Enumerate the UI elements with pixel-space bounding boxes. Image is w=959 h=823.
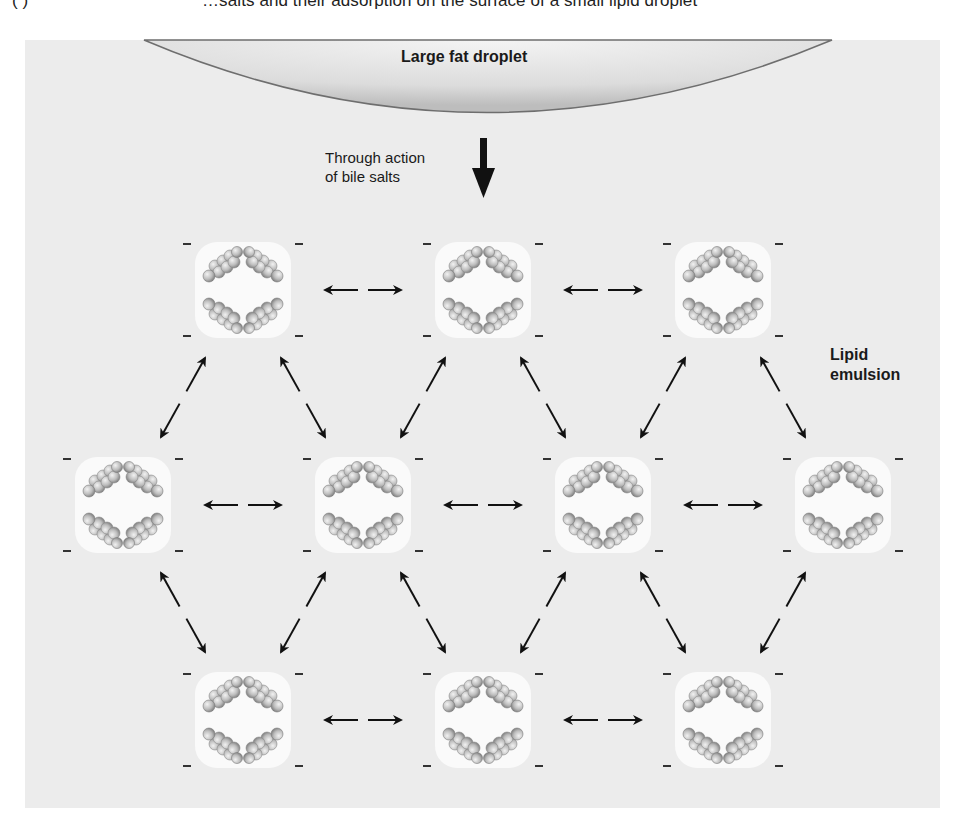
arrow-icon — [666, 619, 685, 652]
down-arrow-icon — [472, 138, 495, 198]
exchange-arrows — [161, 290, 805, 720]
emulsion-droplet — [543, 457, 663, 553]
arrow-icon — [666, 358, 685, 391]
arrow-icon — [186, 358, 205, 391]
arrow-icon — [281, 358, 300, 391]
arrow-icon — [546, 573, 565, 606]
arrow-icon — [161, 404, 180, 437]
large-fat-droplet-label: Large fat droplet — [401, 47, 527, 66]
arrow-icon — [761, 619, 780, 652]
emulsion-droplet — [423, 242, 543, 338]
arrow-icon — [786, 404, 805, 437]
arrow-icon — [306, 573, 325, 606]
arrow-icon — [761, 358, 780, 391]
arrow-icon — [521, 619, 540, 652]
arrow-icon — [306, 404, 325, 437]
arrow-icon — [521, 358, 540, 391]
bile-salts-action-label: Through action of bile salts — [325, 148, 425, 186]
emulsion-droplet — [303, 457, 423, 553]
emulsion-droplets — [63, 242, 903, 768]
emulsion-droplet — [183, 672, 303, 768]
emulsion-droplet — [63, 457, 183, 553]
arrow-icon — [401, 404, 420, 437]
lipid-emulsion-label: Lipid emulsion — [830, 345, 900, 385]
arrow-icon — [786, 573, 805, 606]
arrow-icon — [426, 358, 445, 391]
arrow-icon — [641, 404, 660, 437]
arrow-icon — [641, 573, 660, 606]
emulsion-droplet — [663, 242, 783, 338]
emulsion-droplet — [423, 672, 543, 768]
arrow-icon — [546, 404, 565, 437]
arrow-icon — [186, 619, 205, 652]
emulsion-droplet — [663, 672, 783, 768]
emulsification-diagram — [0, 0, 959, 823]
emulsion-droplet — [183, 242, 303, 338]
emulsion-droplet — [783, 457, 903, 553]
arrow-icon — [426, 619, 445, 652]
arrow-icon — [401, 573, 420, 606]
arrow-icon — [281, 619, 300, 652]
arrow-icon — [161, 573, 180, 606]
